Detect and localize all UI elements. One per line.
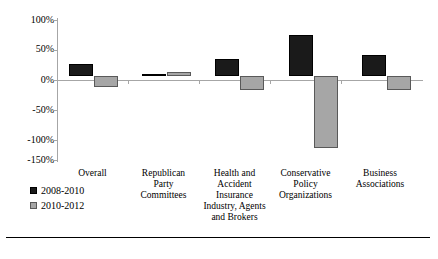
y-tick-label: 0%: [41, 75, 54, 85]
bar-chart: 100% 50% 0% -50% -100% -150% Overall Rep…: [0, 0, 438, 259]
category-label-line: Industry, Agents: [196, 201, 273, 212]
bar-series-2008-2010: [362, 55, 386, 75]
category-label-line: Policy: [270, 179, 341, 190]
bar-group: [57, 18, 130, 162]
bar-series-2008-2010: [215, 59, 239, 75]
bottom-divider: [6, 237, 430, 238]
category-label-line: Committees: [128, 190, 199, 201]
category-label-line: and Brokers: [196, 212, 273, 223]
category-label-line: Republican: [128, 168, 199, 179]
y-tick-label: -100%: [27, 135, 54, 145]
black-square-icon: [30, 187, 37, 194]
category-label-overall: Overall: [57, 168, 128, 179]
category-label-conservative-policy-organizations: ConservativePolicyOrganizations: [270, 168, 341, 201]
y-tick-label: 50%: [36, 44, 54, 54]
legend-label: 2008-2010: [41, 185, 84, 196]
bar-series-2010-2012: [167, 72, 191, 75]
legend-item: 2008-2010: [30, 184, 84, 197]
y-tick-label: -50%: [32, 105, 54, 115]
bar-series-2010-2012: [314, 76, 338, 148]
bar-series-2008-2010: [289, 35, 313, 75]
category-label-line: Insurance: [196, 190, 273, 201]
category-label-line: Party: [128, 179, 199, 190]
category-label-line: Organizations: [270, 190, 341, 201]
category-label-line: Conservative: [270, 168, 341, 179]
chart-legend: 2008-2010 2010-2012: [30, 184, 84, 214]
category-label-line: Overall: [57, 168, 128, 179]
y-tick-label: 100%: [31, 15, 54, 25]
category-label-health-and-accident-insurance: Health andAccidentInsuranceIndustry, Age…: [196, 168, 273, 223]
bar-series-2010-2012: [240, 76, 264, 90]
category-label-line: Business: [341, 168, 419, 179]
gray-square-icon: [30, 202, 37, 209]
plot-area: [57, 18, 423, 162]
bar-series-2010-2012: [387, 76, 411, 90]
bar-group: [130, 18, 203, 162]
bar-group: [203, 18, 276, 162]
legend-label: 2010-2012: [41, 200, 84, 211]
category-label-republican-party-committees: RepublicanPartyCommittees: [128, 168, 199, 201]
category-label-line: Associations: [341, 179, 419, 190]
bar-group: [277, 18, 350, 162]
category-label-business-associations: BusinessAssociations: [341, 168, 419, 190]
category-label-line: Health and: [196, 168, 273, 179]
bar-group: [350, 18, 423, 162]
bar-series-2008-2010: [142, 74, 166, 76]
category-label-line: Accident: [196, 179, 273, 190]
y-axis-labels: 100% 50% 0% -50% -100% -150%: [0, 0, 54, 259]
legend-item: 2010-2012: [30, 199, 84, 212]
bar-series-2008-2010: [69, 64, 93, 76]
bar-series-2010-2012: [94, 76, 118, 88]
y-tick-label: -150%: [27, 155, 54, 165]
